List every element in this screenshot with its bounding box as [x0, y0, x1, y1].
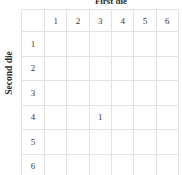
row-header-2: 2: [22, 56, 45, 81]
cell-r3c3: [89, 81, 111, 106]
row-header-1: 1: [22, 32, 45, 57]
cell-r1c6: [156, 32, 178, 57]
cell-r2c2: [67, 56, 89, 81]
cell-r4c2: [67, 105, 89, 130]
cell-r3c4: [111, 81, 133, 106]
table-row: 5: [22, 130, 179, 155]
cell-r5c3: [89, 130, 111, 155]
cell-r6c2: [67, 154, 89, 175]
table-row: 4 1: [22, 105, 179, 130]
column-header-row: 1 2 3 4 5 6: [22, 10, 179, 32]
row-header-3: 3: [22, 81, 45, 106]
cell-r4c5: [134, 105, 156, 130]
cell-r2c6: [156, 56, 178, 81]
column-header-4: 4: [111, 10, 133, 32]
cell-r2c5: [134, 56, 156, 81]
column-header-2: 2: [67, 10, 89, 32]
cell-r3c5: [134, 81, 156, 106]
column-header-3: 3: [89, 10, 111, 32]
first-die-axis-title: First die: [44, 0, 178, 6]
cell-r1c5: [134, 32, 156, 57]
cell-r1c1: [45, 32, 67, 57]
table-row: 6: [22, 154, 179, 175]
cell-r6c6: [156, 154, 178, 175]
cell-r5c2: [67, 130, 89, 155]
table-row: 2: [22, 56, 179, 81]
row-header-4: 4: [22, 105, 45, 130]
cell-r6c3: [89, 154, 111, 175]
table-row: 1: [22, 32, 179, 57]
table-row: 3: [22, 81, 179, 106]
column-header-6: 6: [156, 10, 178, 32]
cell-r3c1: [45, 81, 67, 106]
dice-grid-table: 1 2 3 4 5 6 1 2: [21, 9, 179, 175]
cell-r4c6: [156, 105, 178, 130]
cell-r1c4: [111, 32, 133, 57]
cell-r5c6: [156, 130, 178, 155]
cell-r4c1: [45, 105, 67, 130]
second-die-axis-title: Second die: [4, 33, 14, 113]
cell-r3c2: [67, 81, 89, 106]
cell-r6c4: [111, 154, 133, 175]
column-header-1: 1: [45, 10, 67, 32]
row-header-5: 5: [22, 130, 45, 155]
cell-r1c2: [67, 32, 89, 57]
cell-r2c3: [89, 56, 111, 81]
cell-r6c1: [45, 154, 67, 175]
cell-r6c5: [134, 154, 156, 175]
cell-r5c5: [134, 130, 156, 155]
cell-r5c1: [45, 130, 67, 155]
cell-r2c4: [111, 56, 133, 81]
column-header-5: 5: [134, 10, 156, 32]
row-header-6: 6: [22, 154, 45, 175]
cell-r1c3: [89, 32, 111, 57]
cell-r4c3: 1: [89, 105, 111, 130]
cell-r2c1: [45, 56, 67, 81]
dice-outcome-grid-figure: First die Second die 1 2 3 4 5 6 1: [0, 0, 182, 175]
cell-r4c4: [111, 105, 133, 130]
cell-r5c4: [111, 130, 133, 155]
grid-corner-cell: [22, 10, 45, 32]
cell-r3c6: [156, 81, 178, 106]
